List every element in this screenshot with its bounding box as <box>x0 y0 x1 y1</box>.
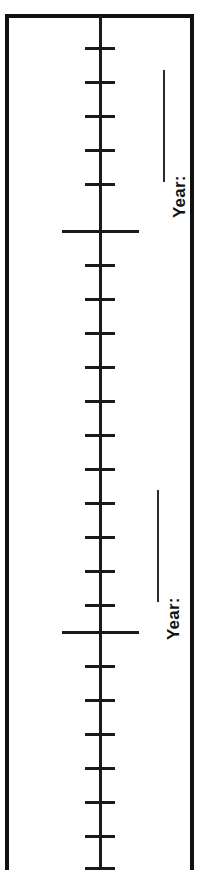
year-blank-rule[interactable] <box>157 490 159 602</box>
tick-minor <box>85 468 115 471</box>
tick-minor <box>85 400 115 403</box>
year-label: Year: <box>164 597 184 640</box>
year-blank-rule[interactable] <box>163 70 165 182</box>
frame-left-rule <box>5 14 9 870</box>
tick-minor <box>85 733 115 736</box>
tick-minor <box>85 604 115 607</box>
timeline-worksheet: Year:Year: <box>0 0 206 870</box>
tick-minor <box>85 502 115 505</box>
tick-minor <box>85 149 115 152</box>
tick-minor <box>85 536 115 539</box>
tick-minor <box>85 570 115 573</box>
tick-minor <box>85 264 115 267</box>
tick-minor <box>85 366 115 369</box>
tick-minor <box>85 699 115 702</box>
tick-minor <box>85 767 115 770</box>
tick-major <box>62 631 139 634</box>
tick-minor <box>85 183 115 186</box>
tick-minor <box>85 81 115 84</box>
tick-minor <box>85 434 115 437</box>
tick-minor <box>85 665 115 668</box>
tick-minor <box>85 835 115 838</box>
tick-minor <box>85 332 115 335</box>
tick-major <box>62 230 139 233</box>
tick-minor <box>85 298 115 301</box>
frame-right-rule <box>190 14 194 870</box>
tick-minor <box>85 47 115 50</box>
timeline-axis-line <box>99 16 102 870</box>
tick-minor <box>85 801 115 804</box>
year-label: Year: <box>170 175 190 218</box>
tick-minor <box>85 115 115 118</box>
